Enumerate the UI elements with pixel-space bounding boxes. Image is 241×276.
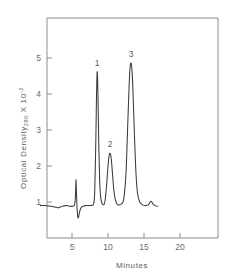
y-axis-tick-labels: 5 4 3 2 1: [36, 53, 41, 207]
chromatogram-figure: 5 4 3 2 1 5 10 15 20 Minutes Optical Den…: [0, 0, 241, 276]
x-axis-ticks: [72, 233, 180, 238]
y-axis-title-base: 10: [19, 93, 28, 103]
y-tick-label-5: 5: [36, 53, 41, 63]
x-tick-label-15: 15: [139, 242, 149, 252]
x-axis-title: Minutes: [116, 261, 148, 270]
peak-label-2: 2: [108, 139, 113, 149]
x-tick-label-10: 10: [103, 242, 113, 252]
x-axis-tick-labels: 5 10 15 20: [70, 242, 185, 252]
y-tick-label-3: 3: [36, 125, 41, 135]
y-axis-title-main: Optical Density: [19, 126, 28, 189]
chromatogram-trace: [40, 63, 157, 218]
y-axis-title-exponent: -2: [18, 87, 24, 93]
x-tick-label-5: 5: [70, 242, 75, 252]
y-axis-title: Optical Density280 X 10-2: [18, 87, 30, 189]
y-tick-label-4: 4: [36, 89, 41, 99]
chart-canvas: 5 4 3 2 1 5 10 15 20 Minutes Optical Den…: [0, 0, 241, 276]
peak-label-3: 3: [129, 49, 134, 59]
y-tick-label-2: 2: [36, 161, 41, 171]
y-axis-title-subscript: 280: [23, 115, 29, 126]
svg-text:Optical Density280 X 10-2: Optical Density280 X 10-2: [18, 87, 30, 189]
x-tick-label-20: 20: [175, 242, 185, 252]
y-axis-ticks: [47, 58, 52, 202]
peak-label-1: 1: [95, 58, 100, 68]
